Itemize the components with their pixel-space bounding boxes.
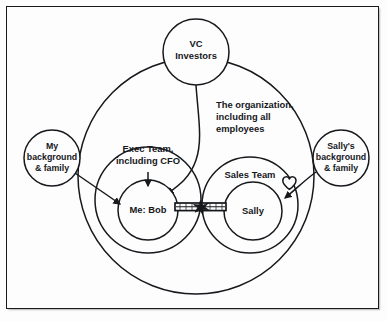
bob-label: Me: Bob <box>130 204 167 215</box>
diagram-canvas: VC Investors The organization, including… <box>0 0 387 321</box>
my-background-label-line3: & family <box>35 163 69 173</box>
my-background-label-line1: My <box>46 141 58 151</box>
sallys-background-label-line3: & family <box>324 163 358 173</box>
organization-caption-line3: employees <box>216 123 264 134</box>
my-background-label-line2: background <box>27 152 77 162</box>
diagram-scene: VC Investors The organization, including… <box>0 0 387 321</box>
sales-team-label: Sales Team <box>225 169 276 180</box>
sallys-background-label-line2: background <box>316 152 366 162</box>
sally-label: Sally <box>242 205 265 216</box>
vc-investors-label: VC <box>189 38 202 49</box>
organization-caption-line2: including all <box>216 111 271 122</box>
exec-team-label-line1: Exec Team, <box>123 143 174 154</box>
sallys-background-label-line1: Sally's <box>327 141 355 151</box>
vc-investors-label-2: Investors <box>175 50 217 61</box>
exec-team-label-line2: including CFO <box>116 155 180 166</box>
organization-caption-line1: The organization, <box>216 99 294 110</box>
